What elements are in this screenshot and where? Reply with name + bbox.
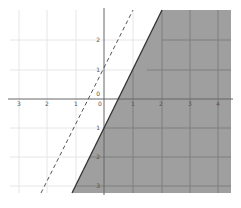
x-tick: 2 bbox=[159, 100, 163, 107]
x-tick: 1 bbox=[131, 100, 135, 107]
x-tick: 4 bbox=[216, 100, 220, 107]
y-tick: 3 bbox=[96, 182, 100, 189]
x-tick: 1 bbox=[74, 100, 78, 107]
graph-plot: 3 2 1 0 1 2 3 4 2 1 0 1 2 3 bbox=[0, 0, 241, 208]
x-tick: 0 bbox=[98, 100, 102, 107]
x-tick: 3 bbox=[17, 100, 21, 107]
y-tick: 1 bbox=[96, 66, 100, 73]
x-tick: 2 bbox=[45, 100, 49, 107]
x-tick: 3 bbox=[188, 100, 192, 107]
y-tick: 1 bbox=[96, 124, 100, 131]
y-tick: 2 bbox=[96, 36, 100, 43]
origin-label: 0 bbox=[96, 90, 100, 97]
y-tick: 2 bbox=[96, 153, 100, 160]
